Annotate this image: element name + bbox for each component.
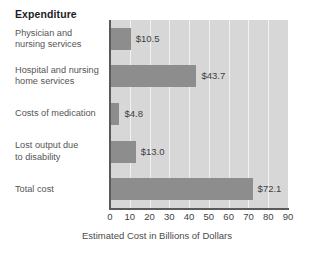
x-tick-label: 20 (144, 211, 155, 222)
x-tick-label: 90 (283, 211, 294, 222)
x-tick-label: 0 (107, 211, 112, 222)
category-label-column: Physician and nursing servicesHospital a… (15, 20, 110, 208)
x-axis-title: Estimated Cost in Billions of Dollars (0, 230, 314, 241)
bar (110, 65, 196, 87)
category-label: Total cost (15, 184, 115, 195)
x-tick-label: 30 (164, 211, 175, 222)
gridline (268, 20, 269, 208)
x-tick-label: 10 (124, 211, 135, 222)
x-tick-label: 40 (184, 211, 195, 222)
x-axis-line (109, 208, 289, 210)
x-tick-label: 70 (243, 211, 254, 222)
category-label: Hospital and nursing home services (15, 65, 115, 87)
x-axis-tick-labels: 0102030405060708090 (0, 211, 314, 225)
x-tick-label: 50 (204, 211, 215, 222)
bar (110, 103, 119, 125)
x-tick-label: 80 (263, 211, 274, 222)
category-label: Physician and nursing services (15, 28, 115, 50)
bar (110, 28, 131, 50)
category-label: Lost output due to disability (15, 140, 115, 162)
bar (110, 178, 253, 200)
plot-area (110, 20, 288, 208)
x-tick-label: 60 (223, 211, 234, 222)
category-label: Costs of medication (15, 108, 115, 119)
chart-title: Expenditure (15, 8, 77, 20)
expenditure-bar-chart: Expenditure Physician and nursing servic… (0, 0, 314, 254)
bar (110, 141, 136, 163)
y-axis-line (109, 20, 111, 209)
